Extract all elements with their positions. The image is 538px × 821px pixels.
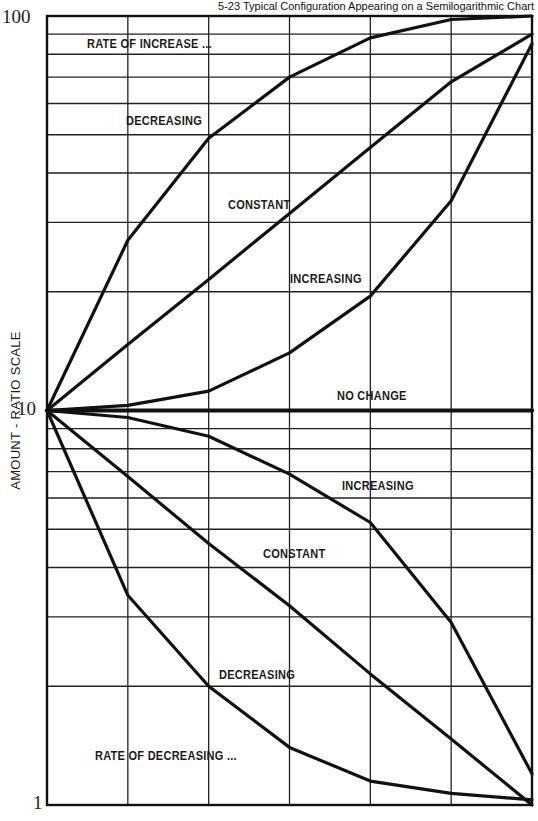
y-tick-10: 10 (17, 398, 36, 420)
y-tick-1: 1 (33, 792, 43, 814)
annotation-increase-constant: CONSTANT (228, 198, 290, 212)
annotation-rate-of-increase: RATE OF INCREASE ... (87, 37, 212, 51)
annotation-decrease-increasing: INCREASING (342, 479, 414, 493)
y-tick-100: 100 (2, 6, 31, 28)
plot-area (0, 0, 538, 821)
annotation-increase-increasing: INCREASING (290, 272, 362, 286)
annotation-decrease-constant: CONSTANT (263, 547, 325, 561)
annotation-increase-decreasing: DECREASING (126, 114, 202, 128)
annotation-decrease-decreasing: DECREASING (219, 668, 295, 682)
annotation-no-change: NO CHANGE (337, 389, 407, 403)
annotation-rate-of-decreasing: RATE OF DECREASING ... (95, 749, 237, 763)
